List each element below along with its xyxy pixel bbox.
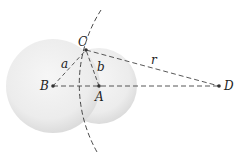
label-d: D: [223, 79, 234, 93]
label-a-segment: a: [61, 57, 68, 71]
label-r-segment: r: [151, 53, 158, 67]
label-b-point: B: [39, 79, 49, 93]
point-d: [217, 84, 221, 88]
point-b: [51, 84, 55, 88]
label-c: C: [78, 35, 87, 49]
label-b-segment: b: [97, 60, 105, 74]
label-a-point: A: [94, 90, 104, 104]
point-a: [97, 84, 101, 88]
geometry-diagram: C B A D a b r: [0, 0, 243, 162]
diagram-canvas: C B A D a b r: [0, 0, 243, 162]
